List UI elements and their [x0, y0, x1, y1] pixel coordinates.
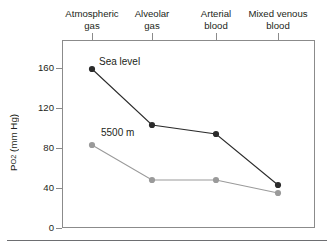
series-annotation-sea-level: Sea level — [99, 56, 140, 67]
figure-bottom-rule — [7, 240, 327, 241]
series-5500m-point-3 — [275, 190, 281, 196]
chart-data-layer — [0, 0, 334, 249]
series-sea-level-point-1 — [149, 122, 155, 128]
series-5500m-point-2 — [213, 177, 219, 183]
series-5500m-line — [92, 145, 278, 193]
figure-po2-cascade: Atmospheric gas Alveolar gas Arterial bl… — [0, 0, 334, 249]
series-annotation-5500m: 5500 m — [101, 127, 134, 138]
series-sea-level-point-0 — [89, 66, 95, 72]
series-sea-level-point-3 — [275, 182, 281, 188]
series-5500m — [89, 142, 281, 196]
series-sea-level-point-2 — [213, 131, 219, 137]
series-5500m-point-1 — [149, 177, 155, 183]
series-5500m-point-0 — [89, 142, 95, 148]
